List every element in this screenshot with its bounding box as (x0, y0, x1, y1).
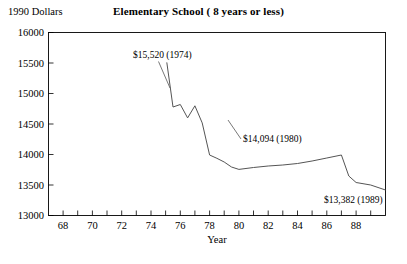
data-series-line (167, 62, 386, 190)
x-axis-ticks (63, 211, 371, 216)
x-tick-label: 82 (263, 220, 274, 231)
y-tick-label: 13500 (18, 180, 44, 191)
annotation-label: $15,520 (1974) (133, 50, 192, 61)
y-tick-label: 14500 (18, 119, 44, 130)
chart-container: 1990 Dollars Elementary School ( 8 years… (0, 0, 407, 264)
annotation-mid: $14,094 (1980) (228, 120, 302, 145)
annotation-end: $13,382 (1989) (324, 195, 383, 206)
x-tick-label: 88 (351, 220, 362, 231)
y-tick-label: 16000 (18, 27, 44, 38)
y-tick-label: 15000 (18, 88, 44, 99)
annotation-label: $13,382 (1989) (324, 195, 383, 206)
y-axis-ticks (49, 33, 54, 216)
x-tick-label: 70 (87, 220, 98, 231)
x-tick-label: 72 (116, 220, 127, 231)
y-axis-tick-labels: 16000 15500 15000 14500 14000 13500 1300… (18, 27, 44, 221)
x-tick-label: 80 (234, 220, 245, 231)
annotation-leader-line (228, 120, 241, 139)
plot-frame (49, 33, 386, 216)
x-tick-label: 68 (58, 220, 69, 231)
x-axis-title: Year (207, 234, 227, 245)
x-axis-tick-labels: 68 70 72 74 76 78 80 82 84 86 88 (58, 220, 362, 231)
x-tick-label: 86 (322, 220, 333, 231)
annotation-peak: $15,520 (1974) (133, 50, 192, 88)
y-tick-label: 13000 (18, 210, 44, 221)
y-tick-label: 14000 (18, 149, 44, 160)
x-tick-label: 76 (175, 220, 186, 231)
x-tick-label: 84 (292, 220, 303, 231)
plot-area: 16000 15500 15000 14500 14000 13500 1300… (0, 0, 407, 264)
x-tick-label: 74 (146, 220, 157, 231)
x-tick-label: 78 (204, 220, 215, 231)
annotation-label: $14,094 (1980) (243, 134, 302, 145)
y-tick-label: 15500 (18, 58, 44, 69)
